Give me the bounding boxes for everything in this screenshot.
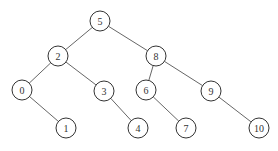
tree-edge <box>164 61 202 85</box>
binary-tree-diagram: 528036914710 <box>0 0 278 151</box>
node-label: 10 <box>254 123 264 134</box>
tree-node: 10 <box>249 118 269 138</box>
tree-edge <box>149 66 153 81</box>
node-label: 4 <box>136 123 141 134</box>
tree-node: 7 <box>176 118 196 138</box>
tree-nodes: 528036914710 <box>12 11 269 138</box>
node-label: 3 <box>102 86 107 97</box>
tree-node: 5 <box>90 11 110 31</box>
node-label: 5 <box>98 16 103 27</box>
node-label: 9 <box>209 86 214 97</box>
node-label: 6 <box>144 85 149 96</box>
tree-edges <box>29 26 251 122</box>
tree-node: 1 <box>56 118 76 138</box>
tree-edge <box>153 97 179 121</box>
node-label: 7 <box>184 123 189 134</box>
node-label: 2 <box>56 51 61 62</box>
tree-edge <box>111 98 131 120</box>
tree-node: 9 <box>201 81 221 101</box>
tree-node: 8 <box>146 46 166 66</box>
node-label: 0 <box>20 85 25 96</box>
tree-edge <box>66 62 96 85</box>
tree-edge <box>108 26 147 50</box>
node-label: 8 <box>154 51 159 62</box>
node-label: 1 <box>64 123 69 134</box>
tree-node: 3 <box>94 81 114 101</box>
tree-node: 6 <box>136 80 156 100</box>
tree-edge <box>29 63 50 83</box>
tree-edge <box>66 27 93 49</box>
tree-node: 0 <box>12 80 32 100</box>
tree-edge <box>219 97 251 122</box>
tree-node: 2 <box>48 46 68 66</box>
tree-edge <box>30 97 59 122</box>
tree-node: 4 <box>128 118 148 138</box>
